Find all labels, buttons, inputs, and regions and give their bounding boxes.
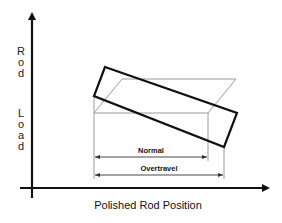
y-label-letter: d xyxy=(18,67,24,79)
x-axis-label: Polished Rod Position xyxy=(94,199,202,211)
dynamometer-card-diagram: Normal Overtravel R o d L o a d Polished… xyxy=(0,0,282,223)
normal-card-outline xyxy=(94,79,236,113)
normal-label: Normal xyxy=(138,146,164,155)
overtravel-label: Overtravel xyxy=(140,164,177,173)
y-label-letter: d xyxy=(18,140,24,152)
